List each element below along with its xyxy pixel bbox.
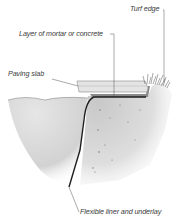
label-turf-edge: Turf edge [130, 4, 159, 13]
label-paving-slab: Paving slab [8, 69, 44, 78]
label-flexible-liner: Flexible liner and underlay [80, 207, 161, 216]
water [8, 97, 88, 181]
paving-slab [77, 81, 148, 92]
label-mortar-layer: Layer of mortar or concrete [19, 29, 103, 38]
